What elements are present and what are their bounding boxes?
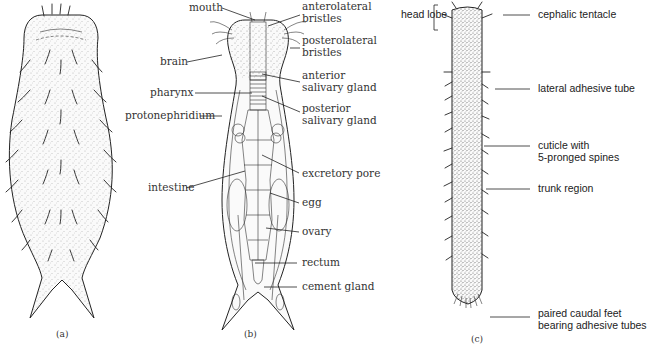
label-cuticle-1: cuticle with [538,139,590,151]
label-posterior-salivary-gland-1: posterior [302,102,352,114]
label-head-lobe: head lobe [401,8,447,20]
label-anterior-salivary-gland-2: salivary gland [302,81,377,93]
label-posterolateral-bristles-1: posterolateral [302,34,378,46]
panel-b-label: (b) [244,329,257,339]
panel-a-label: (a) [56,329,68,339]
label-brain: brain [160,55,188,67]
figure-canvas: (a) mouth [0,0,649,347]
label-posterior-salivary-gland-2: salivary gland [302,114,377,126]
label-lateral-adhesive-tube: lateral adhesive tube [538,82,635,94]
label-cephalic-tentacle: cephalic tentacle [538,8,616,20]
label-ovary: ovary [302,225,332,237]
label-egg: egg [302,196,322,208]
label-cuticle-2: 5-pronged spines [538,151,619,163]
label-rectum: rectum [302,256,340,268]
label-anterior-salivary-gland-1: anterior [302,69,346,81]
label-excretory-pore: excretory pore [302,167,380,179]
label-caudal-feet-2: bearing adhesive tubes [538,319,647,331]
label-protonephridium: protonephridium [125,109,215,121]
label-cement-gland: cement gland [302,280,375,292]
label-caudal-feet-1: paired caudal feet [538,307,622,319]
panel-b-illustration: mouth brain pharynx protonephridium inte… [125,0,380,339]
label-pharynx: pharynx [150,86,193,98]
label-anterolateral-bristles-1: anterolateral [302,0,372,12]
panel-c-illustration: head lobe cephalic tentacle lateral adhe… [401,2,647,344]
panel-a-illustration: (a) [6,4,116,339]
label-trunk-region: trunk region [538,182,594,194]
label-mouth: mouth [189,1,223,13]
label-intestine: intestine [148,181,195,193]
panel-c-label: (c) [471,334,483,344]
label-posterolateral-bristles-2: bristles [302,46,342,58]
label-anterolateral-bristles-2: bristles [302,12,342,24]
